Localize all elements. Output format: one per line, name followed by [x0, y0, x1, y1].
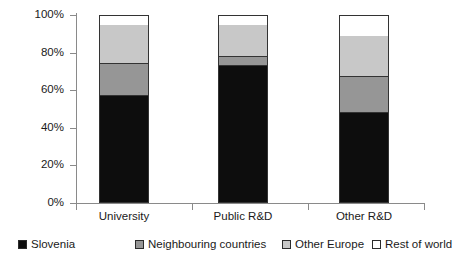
- bar-segment: [340, 113, 388, 202]
- chart-legend: SloveniaNeighbouring countriesOther Euro…: [0, 238, 436, 258]
- y-axis-tick-label: 60%: [4, 84, 64, 96]
- bar-segment: [340, 36, 388, 77]
- bar-segment: [100, 96, 148, 202]
- y-axis-tick: [70, 15, 76, 16]
- y-axis-line: [76, 13, 77, 204]
- y-axis-tick-label: 0%: [4, 197, 64, 209]
- legend-label: Neighbouring countries: [148, 238, 266, 250]
- bar-segment: [100, 64, 148, 96]
- legend-label: Rest of world: [385, 238, 452, 250]
- legend-item-neighbouring-countries[interactable]: Neighbouring countries: [135, 238, 266, 250]
- legend-label: Other Europe: [295, 238, 364, 250]
- legend-swatch-icon: [18, 240, 27, 249]
- y-axis-tick: [70, 53, 76, 54]
- legend-swatch-icon: [135, 240, 144, 249]
- bar-public-r-d: [218, 15, 268, 203]
- bar-other-r-d: [339, 15, 389, 203]
- y-axis-tick-label: 20%: [4, 159, 64, 171]
- legend-item-other-europe[interactable]: Other Europe: [282, 238, 364, 250]
- y-axis-tick: [70, 128, 76, 129]
- bar-university: [99, 15, 149, 203]
- bar-segment: [219, 66, 267, 202]
- x-axis-label-public-r-d: Public R&D: [173, 210, 313, 223]
- bar-segment: [340, 16, 388, 36]
- bar-segment: [100, 16, 148, 25]
- bar-segment: [340, 77, 388, 112]
- y-axis-tick-label: 40%: [4, 122, 64, 134]
- bar-segment: [219, 16, 267, 25]
- x-axis-line: [76, 203, 425, 204]
- x-axis-label-other-r-d: Other R&D: [294, 210, 434, 223]
- bar-segment: [219, 25, 267, 57]
- y-axis-tick: [70, 165, 76, 166]
- y-axis-tick: [70, 90, 76, 91]
- legend-swatch-icon: [372, 240, 381, 249]
- legend-item-rest-of-world[interactable]: Rest of world: [372, 238, 452, 250]
- y-axis-tick-label: 100%: [4, 9, 64, 21]
- legend-label: Slovenia: [31, 238, 75, 250]
- legend-swatch-icon: [282, 240, 291, 249]
- bar-segment: [100, 25, 148, 64]
- y-axis-tick-label: 80%: [4, 47, 64, 59]
- legend-item-slovenia[interactable]: Slovenia: [18, 238, 75, 250]
- bar-segment: [219, 57, 267, 66]
